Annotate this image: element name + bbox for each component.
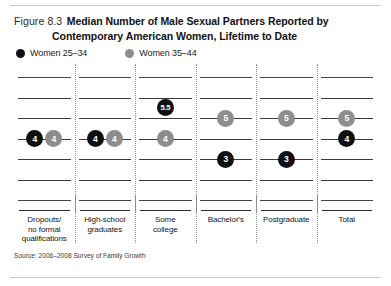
figure-bottom-rule: [10, 277, 381, 278]
gridline: [79, 98, 132, 99]
gridline: [18, 180, 71, 181]
column-divider: [317, 195, 318, 243]
legend-swatch-icon: [16, 49, 25, 58]
column-divider: [256, 195, 257, 243]
gridline: [260, 200, 313, 201]
column-divider: [75, 195, 76, 243]
gridline: [18, 118, 71, 119]
data-point-marker: 5: [278, 110, 295, 127]
figure-top-rule: [10, 5, 381, 6]
gridline: [321, 200, 374, 201]
data-point-marker: 4: [338, 130, 355, 147]
gridline: [200, 139, 253, 140]
category-label-line: no formal: [14, 225, 75, 235]
gridline: [79, 159, 132, 160]
legend-label: Women 35–44: [139, 48, 196, 58]
legend-item-women_35_44: Women 35–44: [125, 48, 196, 58]
category-rule: [19, 210, 70, 211]
gridline: [139, 159, 192, 160]
data-point-marker: 3: [278, 151, 295, 168]
gridline: [18, 200, 71, 201]
category-label-line: Bachelor's: [196, 215, 257, 225]
category-label-text: Somecollege: [135, 215, 196, 234]
data-point-marker: 4: [45, 130, 62, 147]
gridline: [79, 77, 132, 78]
gridline: [321, 98, 374, 99]
category-label-line: Postgraduate: [256, 215, 317, 225]
category-label-line: qualifications: [14, 234, 75, 244]
gridline: [321, 159, 374, 160]
category-label-line: graduates: [75, 225, 136, 235]
chart-legend: Women 25–34Women 35–44: [16, 48, 197, 58]
gridline: [260, 180, 313, 181]
category-label-line: Some: [135, 215, 196, 225]
gridline: [260, 98, 313, 99]
legend-swatch-icon: [125, 49, 134, 58]
gridline: [200, 77, 253, 78]
legend-label: Women 25–34: [30, 48, 87, 58]
gridline: [200, 180, 253, 181]
category-label-line: Total: [317, 215, 378, 225]
column-divider: [75, 64, 76, 212]
category-label-text: Postgraduate: [256, 215, 317, 225]
column-divider: [256, 64, 257, 212]
category-rule: [322, 210, 373, 211]
category-label-line: college: [135, 225, 196, 235]
gridline: [18, 159, 71, 160]
gridline: [321, 77, 374, 78]
category-label-line: Dropouts/: [14, 215, 75, 225]
category-axis: Dropouts/no formalqualificationsHigh-sch…: [0, 210, 391, 258]
data-point-marker: 4: [87, 130, 104, 147]
legend-item-women_25_34: Women 25–34: [16, 48, 87, 58]
figure-number: Figure 8.3: [14, 15, 62, 27]
figure-header: Figure 8.3 Median Number of Male Sexual …: [14, 13, 379, 43]
gridline: [321, 180, 374, 181]
gridline: [79, 180, 132, 181]
gridline: [79, 118, 132, 119]
gridline: [139, 77, 192, 78]
figure-title-line-2: Contemporary American Women, Lifetime to…: [52, 30, 379, 43]
column-divider: [196, 195, 197, 243]
gridline: [18, 77, 71, 78]
figure-title-line-1: Median Number of Male Sexual Partners Re…: [67, 15, 329, 27]
gridline: [260, 77, 313, 78]
gridline: [139, 118, 192, 119]
figure-8-3: Figure 8.3 Median Number of Male Sexual …: [0, 0, 391, 286]
data-point-marker: 5: [217, 110, 234, 127]
data-point-marker: 4: [157, 130, 174, 147]
data-point-marker: 5.5: [157, 99, 174, 116]
gridline: [200, 98, 253, 99]
chart-plot-area: 44445.54353545: [0, 64, 391, 212]
column-divider: [135, 64, 136, 212]
data-point-marker: 5: [338, 110, 355, 127]
gridline: [260, 139, 313, 140]
category-rule: [80, 210, 131, 211]
category-rule: [201, 210, 252, 211]
gridline: [79, 200, 132, 201]
category-rule: [140, 210, 191, 211]
gridline: [139, 200, 192, 201]
category-rule: [261, 210, 312, 211]
category-label-text: Total: [317, 215, 378, 225]
category-label-line: High-school: [75, 215, 136, 225]
column-divider: [196, 64, 197, 212]
gridline: [18, 98, 71, 99]
gridline: [139, 180, 192, 181]
source-note: Source: 2006–2008 Survey of Family Growt…: [14, 252, 146, 259]
data-point-marker: 3: [217, 151, 234, 168]
data-point-marker: 4: [106, 130, 123, 147]
column-divider: [135, 195, 136, 243]
gridline: [200, 200, 253, 201]
data-point-marker: 4: [26, 130, 43, 147]
category-label-text: High-schoolgraduates: [75, 215, 136, 234]
category-label-text: Bachelor's: [196, 215, 257, 225]
figure-title-row: Figure 8.3 Median Number of Male Sexual …: [14, 13, 379, 28]
column-divider: [317, 64, 318, 212]
category-label-text: Dropouts/no formalqualifications: [14, 215, 75, 244]
